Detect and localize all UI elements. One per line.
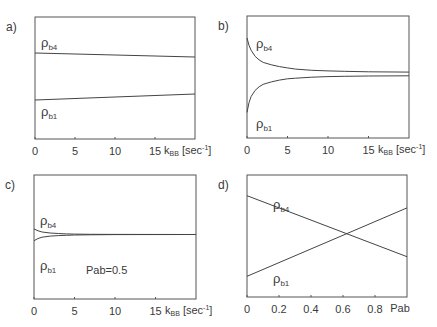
panel-b: b)051015kBB [sec-1]ρb4ρb1: [218, 16, 425, 156]
plot-frame: [34, 175, 196, 299]
figure: a)051015kBB [sec-1]ρb4ρb1b)051015kBB [se…: [0, 0, 437, 327]
panel-label: d): [218, 178, 229, 192]
x-tick-label: 5: [72, 145, 78, 157]
x-tick-label: 15: [149, 145, 161, 157]
x-tick-label: 10: [109, 145, 121, 157]
x-tick-label: 0: [31, 305, 37, 317]
series-line-b1: [35, 94, 195, 100]
x-tick-label: 0: [244, 303, 250, 315]
x-tick-label: 10: [322, 144, 334, 156]
series-label-b4: ρb4: [273, 197, 290, 214]
x-tick-label: 5: [71, 305, 77, 317]
plot-frame: [35, 17, 195, 139]
series-label-b1: ρb1: [40, 258, 57, 275]
series-label-b1: ρb1: [273, 271, 290, 288]
series-label-b4: ρb4: [256, 36, 273, 53]
x-tick-label: 0.6: [335, 303, 350, 315]
plot-frame: [247, 175, 407, 297]
x-tick-label: 0.8: [367, 303, 382, 315]
x-axis-label: kBB [sec-1]: [164, 144, 211, 157]
panel-label: a): [6, 20, 17, 34]
panel-c: c)051015kBB [sec-1]ρb4ρb1Pab=0.5: [5, 175, 212, 317]
series-label-b4: ρb4: [41, 35, 58, 52]
series-line-b4: [34, 229, 196, 235]
series-line-b4: [35, 53, 195, 57]
x-tick-label: 0.2: [271, 303, 286, 315]
series-line-b1: [247, 208, 407, 276]
x-tick-label: 0.4: [303, 303, 318, 315]
panel-a: a)051015kBB [sec-1]ρb4ρb1: [6, 17, 211, 157]
x-tick-label: 10: [109, 305, 121, 317]
panel-label: b): [218, 19, 229, 33]
series-label-b4: ρb4: [40, 213, 57, 230]
series-line-b1: [34, 235, 196, 241]
series-label-b1: ρb1: [256, 116, 273, 133]
x-axis-label: Pab: [390, 302, 410, 314]
x-tick-label: 15: [362, 144, 374, 156]
panel-d: d)00.20.40.60.8Pabρb4ρb1: [218, 175, 410, 315]
series-line-b1: [247, 76, 409, 113]
x-tick-label: 0: [32, 145, 38, 157]
x-tick-label: 15: [149, 305, 161, 317]
series-label-b1: ρb1: [41, 104, 58, 121]
x-tick-label: 5: [284, 144, 290, 156]
x-axis-label: kBB [sec-1]: [378, 143, 425, 156]
panel-label: c): [5, 178, 15, 192]
x-tick-label: 0: [244, 144, 250, 156]
annotation: Pab=0.5: [86, 264, 127, 276]
series-line-b4: [247, 196, 407, 257]
x-axis-label: kBB [sec-1]: [165, 304, 212, 317]
